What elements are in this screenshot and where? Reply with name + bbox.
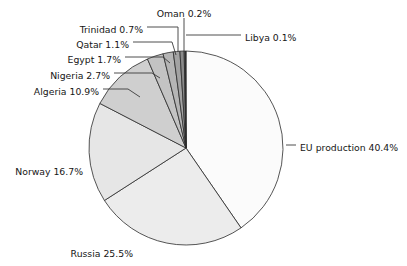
pie-slices-group bbox=[89, 51, 283, 245]
leader-line-trinidad bbox=[147, 27, 178, 52]
slice-label-trinidad: Trinidad 0.7% bbox=[79, 24, 143, 35]
slice-label-algeria: Algeria 10.9% bbox=[34, 86, 99, 97]
slice-label-eu-production: EU production 40.4% bbox=[300, 142, 398, 153]
slice-label-qatar: Qatar 1.1% bbox=[76, 39, 129, 50]
slice-label-egypt: Egypt 1.7% bbox=[68, 54, 122, 65]
pie-chart: EU production 40.4%Russia 25.5%Norway 16… bbox=[0, 0, 407, 266]
pie-chart-canvas: EU production 40.4%Russia 25.5%Norway 16… bbox=[0, 0, 407, 266]
slice-label-oman: Oman 0.2% bbox=[157, 8, 212, 19]
slice-label-norway: Norway 16.7% bbox=[15, 166, 83, 177]
slice-label-russia: Russia 25.5% bbox=[71, 248, 134, 259]
slice-label-nigeria: Nigeria 2.7% bbox=[50, 70, 110, 81]
slice-label-libya: Libya 0.1% bbox=[245, 32, 297, 43]
